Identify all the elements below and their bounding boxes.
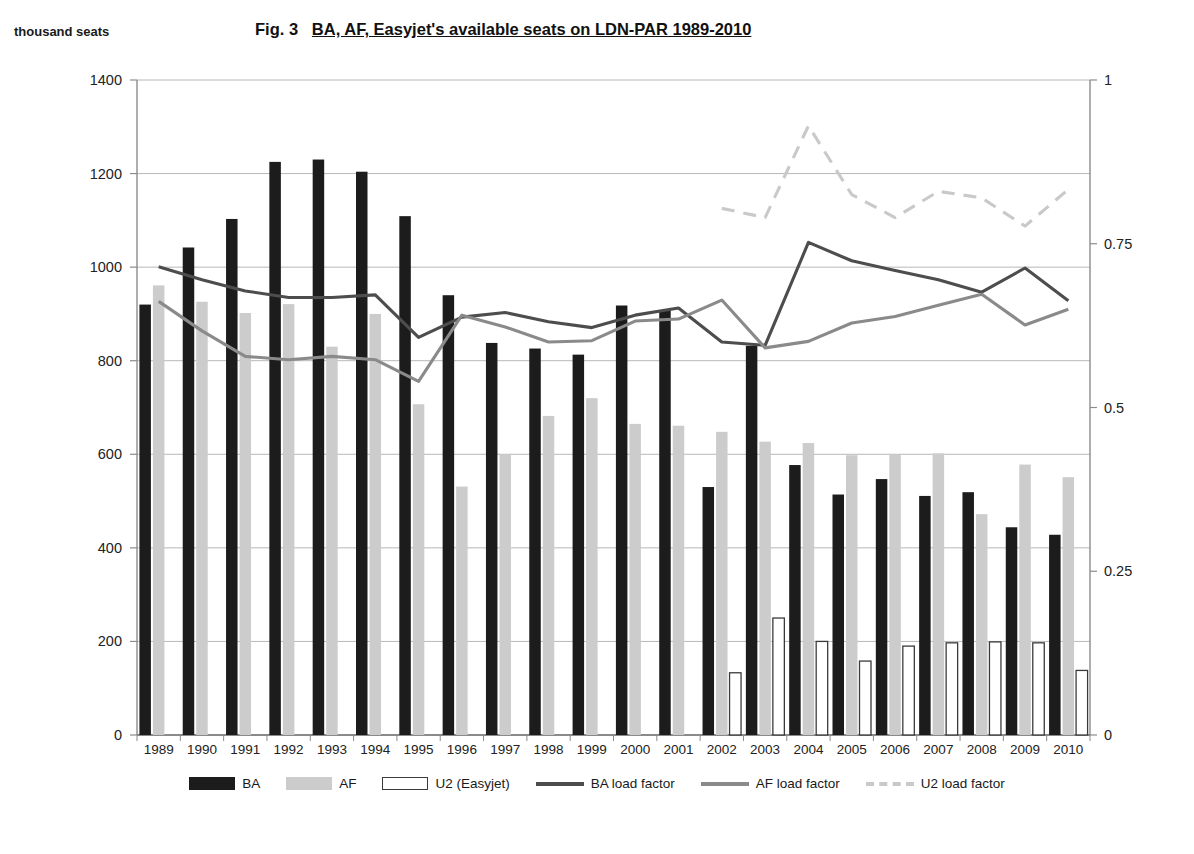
bar-af-1991 bbox=[240, 313, 252, 735]
bar-ba-2008 bbox=[962, 492, 974, 735]
x-axis-tick-label-2002: 2002 bbox=[707, 742, 737, 757]
y-axis-tick-label-1200: 1200 bbox=[2, 166, 122, 182]
x-axis-tick-label-1998: 1998 bbox=[533, 742, 563, 757]
bar-af-2001 bbox=[673, 426, 685, 735]
legend-label: U2 (Easyjet) bbox=[435, 776, 509, 791]
x-axis-tick-label-2000: 2000 bbox=[620, 742, 650, 757]
x-axis-tick-label-2003: 2003 bbox=[750, 742, 780, 757]
bar-u2-easyjet-2006 bbox=[903, 646, 915, 735]
x-axis-tick-label-2005: 2005 bbox=[837, 742, 867, 757]
x-axis-tick-label-1993: 1993 bbox=[317, 742, 347, 757]
bar-ba-2002 bbox=[703, 487, 715, 735]
chart-svg bbox=[0, 0, 1194, 854]
bar-ba-1991 bbox=[226, 219, 238, 735]
y-axis-tick-label-1000: 1000 bbox=[2, 259, 122, 275]
bar-af-2000 bbox=[629, 424, 641, 735]
bar-u2-easyjet-2010 bbox=[1076, 670, 1088, 735]
bar-u2-easyjet-2004 bbox=[816, 641, 828, 735]
y2-axis-tick-label-1: 1 bbox=[1104, 72, 1174, 88]
legend-swatch-ba bbox=[189, 777, 235, 790]
bar-af-2005 bbox=[846, 455, 858, 735]
bar-ba-2010 bbox=[1049, 535, 1061, 735]
bar-af-2009 bbox=[1019, 465, 1031, 735]
x-axis-tick-label-1996: 1996 bbox=[447, 742, 477, 757]
bar-af-2003 bbox=[759, 442, 771, 735]
y-axis-tick-label-0: 0 bbox=[2, 727, 122, 743]
y-axis-tick-label-1400: 1400 bbox=[2, 72, 122, 88]
bar-af-2006 bbox=[889, 455, 901, 735]
bar-af-1989 bbox=[153, 285, 165, 735]
legend-item-ba-load-factor[interactable]: BA load factor bbox=[536, 776, 675, 791]
y-axis-tick-label-600: 600 bbox=[2, 446, 122, 462]
bar-ba-1996 bbox=[443, 295, 455, 735]
y-axis-tick-label-400: 400 bbox=[2, 540, 122, 556]
bar-u2-easyjet-2007 bbox=[946, 643, 958, 735]
bar-af-1995 bbox=[413, 404, 425, 735]
bar-af-1992 bbox=[283, 304, 295, 735]
line-af-load-factor bbox=[159, 294, 1069, 381]
x-axis-tick-label-1999: 1999 bbox=[577, 742, 607, 757]
bar-af-1993 bbox=[326, 347, 338, 735]
bar-af-1999 bbox=[586, 398, 598, 735]
plot-area: 020040060080010001200140000.250.50.75119… bbox=[0, 0, 1194, 854]
x-axis-tick-label-1995: 1995 bbox=[404, 742, 434, 757]
bar-ba-1992 bbox=[269, 162, 281, 735]
bar-u2-easyjet-2008 bbox=[989, 642, 1001, 735]
bar-u2-easyjet-2002 bbox=[730, 673, 742, 735]
legend-item-af-load-factor[interactable]: AF load factor bbox=[701, 776, 840, 791]
bar-ba-2004 bbox=[789, 465, 801, 735]
x-axis-tick-label-1991: 1991 bbox=[230, 742, 260, 757]
bar-ba-1998 bbox=[529, 349, 541, 735]
bar-ba-2003 bbox=[746, 346, 758, 735]
x-axis-tick-label-2007: 2007 bbox=[923, 742, 953, 757]
y2-axis-tick-label-0-5: 0.5 bbox=[1104, 400, 1174, 416]
bar-ba-1995 bbox=[399, 216, 411, 735]
legend-item-u2-load-factor[interactable]: U2 load factor bbox=[866, 776, 1005, 791]
x-axis-tick-label-1994: 1994 bbox=[360, 742, 390, 757]
bar-af-2007 bbox=[933, 453, 945, 735]
legend-item-ba[interactable]: BA bbox=[189, 776, 260, 791]
bar-af-2004 bbox=[803, 443, 815, 735]
bar-ba-1993 bbox=[313, 160, 325, 735]
x-axis-tick-label-1989: 1989 bbox=[144, 742, 174, 757]
bar-ba-2005 bbox=[833, 495, 845, 735]
y2-axis-tick-label-0-75: 0.75 bbox=[1104, 236, 1174, 252]
bar-ba-2007 bbox=[919, 496, 931, 735]
chart-page: thousand seats Fig. 3 BA, AF, Easyjet's … bbox=[0, 0, 1194, 854]
legend-label: AF bbox=[339, 776, 356, 791]
legend-label: BA bbox=[242, 776, 260, 791]
bar-u2-easyjet-2003 bbox=[773, 618, 785, 735]
x-axis-tick-label-1992: 1992 bbox=[274, 742, 304, 757]
bar-af-2010 bbox=[1063, 477, 1075, 735]
bar-af-2008 bbox=[976, 514, 988, 735]
legend-label: AF load factor bbox=[756, 776, 840, 791]
chart-legend: BAAFU2 (Easyjet)BA load factorAF load fa… bbox=[0, 776, 1194, 791]
bar-af-1990 bbox=[196, 302, 208, 735]
line-u2-load-factor bbox=[722, 126, 1069, 226]
bar-ba-1997 bbox=[486, 343, 498, 735]
legend-item-af[interactable]: AF bbox=[286, 776, 356, 791]
bar-af-1998 bbox=[543, 416, 555, 735]
bar-af-1994 bbox=[370, 314, 382, 735]
bar-af-1997 bbox=[499, 455, 511, 735]
bar-ba-1989 bbox=[139, 305, 151, 735]
legend-label: U2 load factor bbox=[921, 776, 1005, 791]
bar-af-1996 bbox=[456, 487, 468, 735]
bar-ba-1999 bbox=[573, 355, 585, 735]
bar-u2-easyjet-2009 bbox=[1033, 643, 1045, 735]
bar-u2-easyjet-2005 bbox=[860, 661, 872, 735]
x-axis-tick-label-2010: 2010 bbox=[1053, 742, 1083, 757]
bar-ba-2001 bbox=[659, 310, 671, 735]
y-axis-tick-label-200: 200 bbox=[2, 633, 122, 649]
x-axis-tick-label-2009: 2009 bbox=[1010, 742, 1040, 757]
legend-swatch-u2-easyjet bbox=[382, 777, 428, 790]
x-axis-tick-label-2006: 2006 bbox=[880, 742, 910, 757]
legend-item-u2-easyjet[interactable]: U2 (Easyjet) bbox=[382, 776, 509, 791]
bar-ba-2009 bbox=[1006, 527, 1018, 735]
bar-ba-1994 bbox=[356, 172, 368, 735]
y2-axis-tick-label-0-25: 0.25 bbox=[1104, 563, 1174, 579]
x-axis-tick-label-1990: 1990 bbox=[187, 742, 217, 757]
y2-axis-tick-label-0: 0 bbox=[1104, 727, 1174, 743]
legend-label: BA load factor bbox=[591, 776, 675, 791]
x-axis-tick-label-2004: 2004 bbox=[793, 742, 823, 757]
